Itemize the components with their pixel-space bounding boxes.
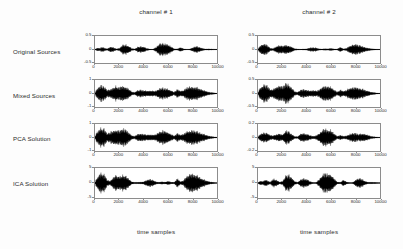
row-label-mixed-sources: Mixed Sources — [13, 92, 55, 99]
y-tick-label: -0.5 — [242, 104, 255, 108]
y-tick-mark — [92, 49, 94, 50]
x-tick-label: 0 — [85, 109, 103, 113]
x-tick-mark — [218, 152, 219, 154]
x-tick-mark — [381, 108, 382, 110]
x-tick-mark — [356, 152, 357, 154]
y-tick-mark — [92, 123, 94, 124]
x-tick-mark — [193, 199, 194, 201]
x-tick-label: 10000 — [372, 200, 390, 204]
x-tick-label: 10000 — [209, 109, 227, 113]
plot-axes — [94, 167, 218, 199]
y-tick-label: -1 — [79, 148, 92, 152]
y-tick-label: 0 — [79, 91, 92, 95]
figure-canvas: channel # 1 channel # 2 Original Sources… — [0, 0, 403, 249]
y-tick-label: 5 — [242, 165, 255, 169]
y-tick-mark — [255, 93, 257, 94]
x-tick-label: 6000 — [322, 200, 340, 204]
x-tick-mark — [257, 64, 258, 66]
x-tick-label: 2000 — [272, 153, 290, 157]
x-tick-mark — [94, 64, 95, 66]
x-tick-mark — [168, 152, 169, 154]
x-tick-label: 2000 — [272, 200, 290, 204]
x-tick-mark — [281, 152, 282, 154]
x-tick-mark — [143, 108, 144, 110]
x-tick-label: 10000 — [209, 200, 227, 204]
x-tick-mark — [257, 199, 258, 201]
y-tick-label: -0.2 — [242, 148, 255, 152]
x-tick-label: 6000 — [322, 109, 340, 113]
x-tick-mark — [143, 64, 144, 66]
x-tick-mark — [143, 152, 144, 154]
y-tick-label: -5 — [242, 195, 255, 199]
y-tick-label: 0.5 — [242, 77, 255, 81]
x-tick-mark — [118, 64, 119, 66]
x-tick-label: 8000 — [184, 109, 202, 113]
y-tick-mark — [92, 182, 94, 183]
y-tick-mark — [92, 79, 94, 80]
x-tick-mark — [356, 199, 357, 201]
x-tick-mark — [281, 199, 282, 201]
x-tick-label: 0 — [248, 200, 266, 204]
x-tick-label: 4000 — [134, 153, 152, 157]
y-tick-mark — [255, 137, 257, 138]
x-tick-mark — [94, 108, 95, 110]
plot-axes — [94, 79, 218, 108]
y-tick-label: 1 — [79, 121, 92, 125]
x-tick-label: 2000 — [272, 109, 290, 113]
y-tick-mark — [255, 35, 257, 36]
waveform-trace — [95, 42, 217, 55]
x-tick-mark — [381, 199, 382, 201]
waveform-trace — [95, 85, 217, 102]
waveform-trace — [258, 128, 380, 146]
x-tick-label: 8000 — [347, 109, 365, 113]
y-tick-label: 0 — [242, 91, 255, 95]
x-tick-label: 10000 — [209, 65, 227, 69]
x-tick-label: 0 — [248, 153, 266, 157]
x-tick-mark — [143, 199, 144, 201]
waveform-trace — [95, 172, 217, 193]
x-tick-mark — [218, 199, 219, 201]
waveform-trace — [258, 173, 380, 193]
x-tick-mark — [356, 64, 357, 66]
y-tick-label: 5 — [79, 165, 92, 169]
x-tick-mark — [331, 152, 332, 154]
x-tick-mark — [94, 199, 95, 201]
y-tick-label: -1 — [79, 104, 92, 108]
x-tick-label: 6000 — [159, 109, 177, 113]
y-tick-mark — [92, 167, 94, 168]
x-tick-label: 2000 — [109, 109, 127, 113]
x-tick-mark — [306, 64, 307, 66]
plot-axes — [257, 123, 381, 152]
x-tick-mark — [218, 64, 219, 66]
y-tick-label: 0.5 — [79, 33, 92, 37]
y-tick-mark — [255, 167, 257, 168]
column-title-channel-1: channel # 1 — [96, 8, 216, 15]
x-tick-label: 4000 — [297, 65, 315, 69]
y-tick-label: 0.2 — [242, 121, 255, 125]
x-tick-label: 8000 — [347, 153, 365, 157]
y-tick-label: -0.5 — [79, 60, 92, 64]
waveform-trace — [95, 127, 217, 147]
x-tick-label: 4000 — [134, 65, 152, 69]
x-tick-mark — [168, 199, 169, 201]
x-tick-mark — [331, 108, 332, 110]
y-tick-label: 0 — [242, 47, 255, 51]
waveform-trace — [258, 44, 380, 55]
x-tick-mark — [257, 152, 258, 154]
x-tick-mark — [94, 152, 95, 154]
x-tick-label: 4000 — [297, 109, 315, 113]
x-tick-label: 6000 — [159, 65, 177, 69]
x-tick-label: 8000 — [184, 65, 202, 69]
x-tick-mark — [331, 199, 332, 201]
row-label-pca-solution: PCA Solution — [13, 135, 51, 142]
x-tick-label: 4000 — [134, 200, 152, 204]
x-tick-label: 0 — [85, 153, 103, 157]
plot-axes — [257, 35, 381, 64]
y-tick-mark — [92, 137, 94, 138]
x-tick-label: 0 — [85, 200, 103, 204]
x-tick-mark — [356, 108, 357, 110]
x-tick-mark — [381, 64, 382, 66]
x-tick-label: 2000 — [272, 65, 290, 69]
x-tick-mark — [193, 152, 194, 154]
x-tick-mark — [193, 108, 194, 110]
